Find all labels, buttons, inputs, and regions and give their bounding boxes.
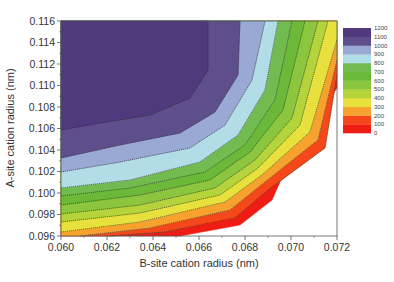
legend-label: 1200 (374, 25, 388, 31)
legend-label: 400 (374, 95, 385, 101)
y-tick-label: 0.102 (29, 165, 55, 177)
y-tick-label: 0.110 (30, 79, 56, 91)
x-tick-label: 0.072 (324, 241, 350, 253)
contour-bands (61, 21, 337, 236)
legend-swatch (343, 37, 371, 46)
y-tick-label: 0.116 (30, 15, 56, 27)
x-tick-label: 0.068 (232, 241, 258, 253)
legend-label: 200 (374, 113, 385, 119)
legend-swatch (343, 81, 371, 90)
y-tick-label: 0.104 (29, 144, 55, 156)
legend-swatch (343, 28, 371, 37)
legend-label: 0 (374, 130, 378, 136)
color-legend: 0100200300400500600700800900100011001200 (343, 25, 388, 136)
legend-swatch (343, 124, 371, 133)
legend-swatch (343, 89, 371, 98)
legend-label: 500 (374, 86, 385, 92)
x-tick-label: 0.064 (140, 241, 166, 253)
x-tick-label: 0.066 (186, 241, 212, 253)
legend-swatch (343, 54, 371, 63)
x-axis: 0.0600.0620.0640.0660.0680.0700.072 (48, 236, 350, 253)
legend-label: 300 (374, 104, 385, 110)
legend-swatch (343, 46, 371, 55)
legend-swatch (343, 107, 371, 116)
y-tick-label: 0.096 (29, 230, 55, 242)
legend-label: 600 (374, 78, 385, 84)
y-axis: 0.0960.0980.1000.1020.1040.1060.1080.110… (29, 15, 61, 242)
y-axis-label: A-site cation radius (nm) (4, 68, 16, 187)
legend-label: 800 (374, 60, 385, 66)
y-tick-label: 0.106 (29, 122, 55, 134)
y-tick-label: 0.098 (29, 208, 55, 220)
legend-label: 100 (374, 121, 385, 127)
x-tick-label: 0.070 (278, 241, 304, 253)
y-tick-label: 0.100 (29, 187, 55, 199)
legend-swatch (343, 63, 371, 72)
y-tick-label: 0.108 (29, 101, 55, 113)
legend-label: 1100 (374, 34, 388, 40)
legend-swatch (343, 72, 371, 81)
legend-label: 1000 (374, 43, 388, 49)
x-tick-label: 0.060 (48, 241, 74, 253)
y-tick-label: 0.114 (30, 36, 56, 48)
legend-swatch (343, 98, 371, 107)
legend-swatch (343, 116, 371, 125)
y-tick-label: 0.112 (30, 58, 56, 70)
legend-label: 900 (374, 51, 385, 57)
contour-chart: 0.0600.0620.0640.0660.0680.0700.072 0.09… (0, 0, 394, 282)
x-tick-label: 0.062 (94, 241, 120, 253)
legend-label: 700 (374, 69, 385, 75)
x-axis-label: B-site cation radius (nm) (139, 257, 258, 269)
